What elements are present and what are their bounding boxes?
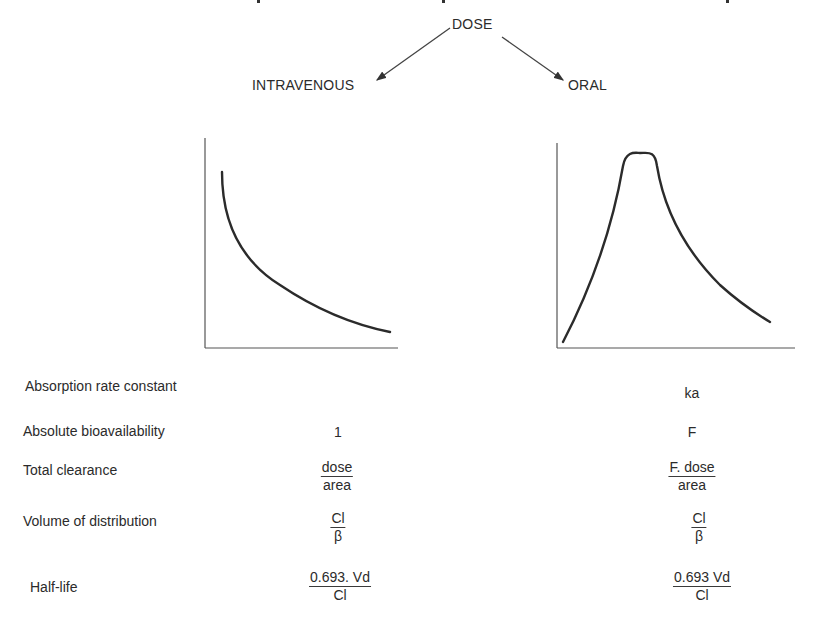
- fraction-denominator: Cl: [333, 587, 346, 603]
- oral-bioavailability-value: F: [688, 424, 697, 440]
- oral-absorption-elimination-curve: [563, 153, 770, 342]
- intravenous-label: INTRAVENOUS: [252, 77, 354, 93]
- fraction-denominator: area: [678, 477, 706, 493]
- fraction-numerator: dose: [321, 460, 353, 477]
- iv-bioavailability-value: 1: [334, 424, 342, 440]
- oral-clearance-formula: F. dose area: [668, 460, 715, 493]
- row-label-absorption-rate-constant: Absorption rate constant: [25, 378, 177, 394]
- fraction-numerator: Cl: [691, 511, 706, 528]
- row-label-half-life: Half-life: [30, 579, 77, 595]
- arrow-to-intravenous: [377, 28, 450, 80]
- oral-label: ORAL: [568, 77, 607, 93]
- fraction-denominator: β: [695, 528, 703, 544]
- fraction-denominator: β: [334, 528, 342, 544]
- fraction-numerator: Cl: [330, 511, 345, 528]
- row-label-absolute-bioavailability: Absolute bioavailability: [23, 423, 165, 439]
- oral-absorption-rate-value: ka: [685, 385, 700, 401]
- oral-half-life-formula: 0.693 Vd Cl: [673, 570, 731, 603]
- fraction-numerator: 0.693. Vd: [309, 570, 371, 587]
- fraction-numerator: 0.693 Vd: [673, 570, 731, 587]
- iv-clearance-formula: dose area: [321, 460, 353, 493]
- row-label-volume-of-distribution: Volume of distribution: [23, 513, 157, 529]
- oral-volume-formula: Cl β: [691, 511, 706, 544]
- dose-label: DOSE: [452, 16, 492, 32]
- oral-chart: [557, 143, 795, 348]
- iv-volume-formula: Cl β: [330, 511, 345, 544]
- iv-decay-curve: [222, 172, 390, 332]
- row-label-total-clearance: Total clearance: [23, 462, 117, 478]
- fraction-numerator: F. dose: [668, 460, 715, 477]
- iv-chart: [205, 138, 398, 348]
- fraction-denominator: area: [323, 477, 351, 493]
- arrow-to-oral: [502, 37, 563, 80]
- iv-half-life-formula: 0.693. Vd Cl: [309, 570, 371, 603]
- fraction-denominator: Cl: [695, 587, 708, 603]
